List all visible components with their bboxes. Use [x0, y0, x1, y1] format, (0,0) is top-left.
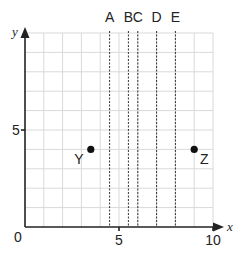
dashed-line-label: B	[124, 9, 133, 25]
point-y	[87, 146, 94, 153]
dashed-line-label: C	[133, 9, 143, 25]
point-label: Y	[74, 151, 84, 167]
y-axis-label: y	[10, 24, 18, 39]
point-z	[191, 146, 198, 153]
x-axis-label: x	[226, 219, 233, 234]
point-label: Z	[200, 151, 209, 167]
x-tick-label: 5	[115, 232, 123, 248]
x-tick-label: 10	[205, 232, 221, 248]
coordinate-grid-diagram: ABCDE x y 0 5105 YZ	[0, 0, 241, 256]
x-axis-arrow-icon	[213, 223, 224, 232]
dashed-line-label: E	[171, 9, 180, 25]
origin-label: 0	[14, 229, 22, 245]
y-tick-label: 5	[12, 122, 20, 138]
vertical-dashed-lines: ABCDE	[105, 9, 180, 227]
grid	[25, 33, 213, 227]
dashed-line-label: D	[152, 9, 162, 25]
dashed-line-label: A	[105, 9, 115, 25]
